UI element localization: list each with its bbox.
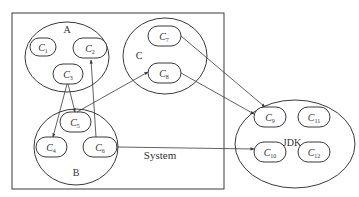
edge-c5-c8	[77, 72, 148, 112]
architecture-diagram: System A C1 C2 C3 C C7 C8 B	[0, 0, 359, 197]
group-a-label: A	[63, 24, 71, 35]
component-c9[interactable]: C9	[254, 107, 286, 127]
group-c: C C7 C8	[123, 18, 207, 94]
component-c11[interactable]: C11	[298, 107, 330, 127]
component-c5[interactable]: C5	[60, 112, 91, 132]
group-a: A C1 C2 C3	[25, 22, 109, 92]
component-c2[interactable]: C2	[73, 38, 107, 58]
edge-c3-c5	[68, 84, 75, 112]
component-c3[interactable]: C3	[53, 64, 83, 84]
edge-c8-c9	[181, 73, 254, 114]
group-b-label: B	[73, 167, 80, 178]
component-c7[interactable]: C7	[148, 26, 181, 46]
component-c12[interactable]: C12	[298, 142, 330, 162]
edge-c6-c10	[117, 147, 254, 149]
edge-c6-c2	[91, 60, 96, 137]
component-c1[interactable]: C1	[30, 38, 56, 56]
group-jdk-label: JDK	[283, 137, 302, 148]
component-c8[interactable]: C8	[148, 63, 181, 83]
group-c-label: C	[136, 50, 143, 61]
component-c4[interactable]: C4	[36, 137, 67, 157]
component-c6[interactable]: C6	[83, 137, 117, 157]
component-c10[interactable]: C10	[254, 142, 286, 162]
group-b: B C5 C4 C6	[34, 109, 118, 185]
system-label: System	[144, 149, 177, 161]
